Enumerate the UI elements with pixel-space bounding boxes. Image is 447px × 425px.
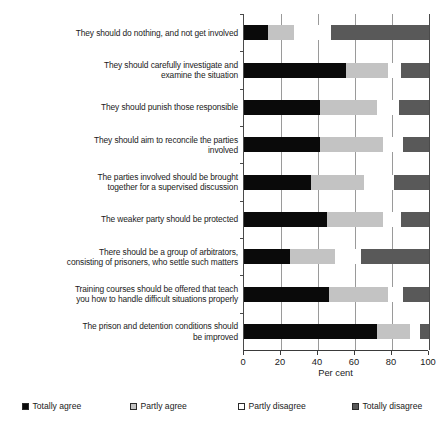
legend-label: Partly agree — [141, 401, 187, 411]
bar-row — [244, 175, 429, 190]
bar-segment-partly-agree — [346, 63, 389, 78]
bar-segment-partly-agree — [329, 287, 388, 302]
x-axis-tick — [280, 351, 281, 355]
legend-swatch-icon — [352, 403, 359, 410]
x-axis-tick — [243, 351, 244, 355]
x-axis-title: Per cent — [243, 368, 428, 378]
legend-swatch-icon — [22, 403, 29, 410]
bar-segment-partly-disagree — [294, 25, 331, 40]
bar-segment-partly-agree — [320, 100, 377, 115]
bar-segment-partly-disagree — [364, 175, 394, 190]
y-axis-tick — [240, 238, 244, 239]
bar-segment-partly-agree — [290, 249, 334, 264]
bar-row — [244, 212, 429, 227]
y-axis-tick — [240, 14, 244, 15]
x-axis-tick — [317, 351, 318, 355]
bar-row — [244, 324, 429, 339]
legend: Totally agreePartly agreePartly disagree… — [22, 398, 432, 414]
bar-segment-totally-agree — [244, 175, 311, 190]
bar-row — [244, 249, 429, 264]
bar-segment-totally-agree — [244, 63, 346, 78]
y-axis-tick — [240, 51, 244, 52]
legend-swatch-icon — [238, 403, 245, 410]
x-axis-tick — [391, 351, 392, 355]
bar-segment-totally-disagree — [394, 175, 429, 190]
bar-segment-partly-disagree — [388, 287, 403, 302]
legend-item[interactable]: Partly disagree — [238, 401, 306, 411]
legend-item[interactable]: Totally disagree — [352, 401, 422, 411]
plot-wrapper: They should do nothing, and not get invo… — [0, 14, 447, 350]
bar-segment-partly-disagree — [383, 212, 402, 227]
bar-segment-partly-agree — [377, 324, 410, 339]
bar-segment-partly-disagree — [388, 63, 401, 78]
bar-segment-partly-disagree — [377, 100, 399, 115]
x-axis-tick-label: 80 — [376, 357, 406, 367]
y-axis-tick — [240, 163, 244, 164]
x-axis-tick-label: 20 — [265, 357, 295, 367]
bar-segment-totally-agree — [244, 249, 290, 264]
bar-segment-totally-disagree — [401, 212, 429, 227]
category-label: The prison and detention conditions shou… — [0, 321, 238, 341]
plot-area — [243, 14, 429, 350]
bar-segment-partly-disagree — [410, 324, 419, 339]
bar-segment-totally-disagree — [403, 137, 429, 152]
legend-swatch-icon — [130, 403, 137, 410]
bar-segment-partly-disagree — [335, 249, 361, 264]
category-label: They should punish those responsible — [0, 102, 238, 112]
bar-segment-totally-agree — [244, 137, 320, 152]
legend-label: Partly disagree — [249, 401, 306, 411]
bar-segment-totally-agree — [244, 25, 268, 40]
bar-segment-totally-disagree — [401, 63, 429, 78]
legend-item[interactable]: Totally agree — [22, 401, 81, 411]
bar-segment-totally-disagree — [399, 100, 429, 115]
bar-row — [244, 63, 429, 78]
bar-segment-totally-disagree — [403, 287, 429, 302]
bar-segment-partly-disagree — [383, 137, 403, 152]
bar-segment-partly-agree — [311, 175, 365, 190]
x-axis: 020406080100 — [243, 350, 428, 351]
category-label: The weaker party should be protected — [0, 214, 238, 224]
y-axis-tick — [240, 126, 244, 127]
x-axis-tick — [354, 351, 355, 355]
y-axis-tick — [240, 275, 244, 276]
legend-label: Totally disagree — [363, 401, 423, 411]
bar-segment-totally-disagree — [361, 249, 429, 264]
gridline — [429, 14, 430, 350]
x-axis-tick-label: 60 — [339, 357, 369, 367]
category-label: There should be a group of arbitrators, … — [0, 247, 238, 267]
x-axis-tick-label: 100 — [413, 357, 443, 367]
stacked-bar-chart: They should do nothing, and not get invo… — [0, 0, 447, 425]
bar-row — [244, 25, 429, 40]
y-axis-tick — [240, 313, 244, 314]
bar-row — [244, 287, 429, 302]
category-label: They should do nothing, and not get invo… — [0, 28, 238, 38]
x-axis-tick-label: 0 — [228, 357, 258, 367]
bar-segment-totally-agree — [244, 287, 329, 302]
bar-row — [244, 100, 429, 115]
bar-segment-partly-agree — [327, 212, 383, 227]
bar-segment-partly-agree — [320, 137, 383, 152]
category-label: They should carefully investigate and ex… — [0, 60, 238, 80]
bar-segment-totally-agree — [244, 324, 377, 339]
category-label-column: They should do nothing, and not get invo… — [0, 14, 238, 350]
x-axis-tick-label: 40 — [302, 357, 332, 367]
x-axis-tick — [428, 351, 429, 355]
bar-row — [244, 137, 429, 152]
y-axis-tick — [240, 89, 244, 90]
legend-item[interactable]: Partly agree — [130, 401, 187, 411]
y-axis-tick — [240, 201, 244, 202]
bar-segment-partly-agree — [268, 25, 294, 40]
legend-label: Totally agree — [33, 401, 82, 411]
category-label: They should aim to reconcile the parties… — [0, 135, 238, 155]
category-label: The parties involved should be brought t… — [0, 172, 238, 192]
bar-segment-totally-agree — [244, 100, 320, 115]
bar-segment-totally-disagree — [331, 25, 429, 40]
bar-segment-totally-disagree — [420, 324, 429, 339]
bar-segment-totally-agree — [244, 212, 327, 227]
category-label: Training courses should be offered that … — [0, 284, 238, 304]
